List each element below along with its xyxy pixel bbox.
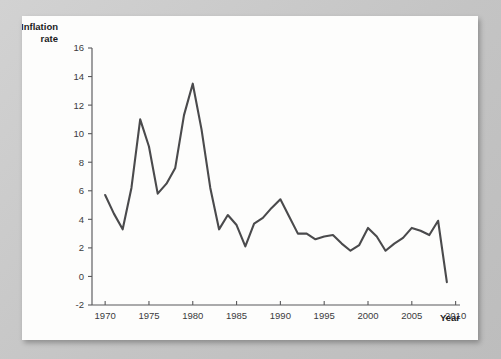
- x-axis: 197019751980198519901995200020052010: [92, 301, 466, 321]
- y-tick-label: 16: [73, 42, 84, 53]
- y-axis: -20246810121416: [73, 42, 92, 310]
- y-tick-label: 12: [73, 100, 84, 111]
- x-tick-label: 2000: [357, 310, 378, 321]
- x-tick-label: 1985: [226, 310, 247, 321]
- x-tick-label: 1995: [314, 310, 335, 321]
- y-tick-label: 2: [79, 242, 84, 253]
- x-tick-label: 1990: [270, 310, 291, 321]
- x-tick-label: 1980: [182, 310, 203, 321]
- y-axis-title-line-2: rate: [41, 33, 58, 44]
- x-tick-label: 1975: [138, 310, 159, 321]
- x-tick-label: 1970: [95, 310, 116, 321]
- y-axis-title-line-1: Inflation: [22, 21, 58, 32]
- y-tick-label: 10: [73, 128, 84, 139]
- inflation-rate-series: [105, 84, 447, 282]
- y-tick-label: 6: [79, 185, 84, 196]
- inflation-rate-line-chart: -20246810121416 197019751980198519901995…: [22, 16, 478, 340]
- x-tick-label: 2005: [401, 310, 422, 321]
- chart-card: -20246810121416 197019751980198519901995…: [22, 16, 478, 340]
- y-tick-label: -2: [76, 299, 84, 310]
- y-tick-label: 4: [79, 214, 84, 225]
- y-tick-label: 8: [79, 157, 84, 168]
- y-tick-label: 14: [73, 71, 84, 82]
- x-axis-title: Year: [440, 312, 460, 323]
- y-tick-label: 0: [79, 271, 84, 282]
